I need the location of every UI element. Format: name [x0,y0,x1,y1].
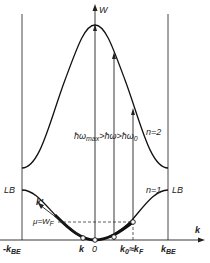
k0-kf-label: k0≈kF [120,245,143,255]
origin-label: 0 [92,245,97,254]
k-point-label: k [79,245,84,254]
k-prime-label: k' [36,198,43,207]
neg-kbe-label: -kBE [3,245,21,255]
state-marker-k [81,236,86,241]
n2-label: n=2 [146,128,161,137]
k-axis-label: k [195,226,200,235]
lb-left-label: LB [4,186,15,195]
state-marker-kf [131,220,136,225]
w-axis-label: W [99,6,108,15]
kbe-label: kBE [161,245,176,255]
state-marker-origin [93,238,98,243]
k-axis-arrow-icon [198,238,205,243]
state-marker-mid [112,235,117,240]
omega-condition-label: ħωmax>ħω>ħω0 [74,132,138,142]
mu-label: μ=WF [33,218,54,227]
w-axis-arrow-icon [93,4,98,11]
occupied-states [55,215,133,240]
n1-label: n=1 [146,186,161,195]
lb-right-label: LB [172,186,183,195]
